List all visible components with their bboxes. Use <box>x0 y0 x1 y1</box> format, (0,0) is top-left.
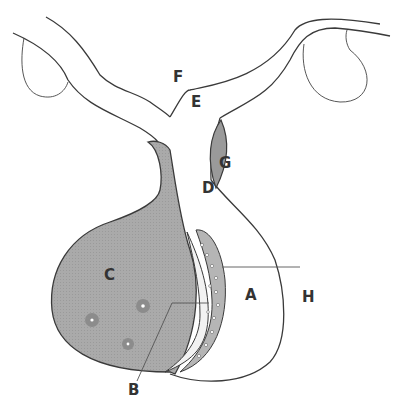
label-b: B <box>128 383 139 398</box>
cell-1-nucleus <box>90 318 93 321</box>
diagram-canvas <box>0 0 408 415</box>
cell-2-nucleus <box>141 304 145 308</box>
left-branch-upper-wall <box>46 17 170 117</box>
left-branch-lower-wall <box>13 33 158 142</box>
label-c: C <box>104 268 115 283</box>
label-h: H <box>302 290 315 305</box>
label-f: F <box>173 70 183 85</box>
cell-3-nucleus <box>127 343 130 346</box>
label-e: E <box>191 95 201 110</box>
right-branch-lower-wall <box>220 28 390 118</box>
label-g: G <box>219 156 231 171</box>
right-cyst-loop <box>303 30 367 102</box>
label-d: D <box>202 181 214 196</box>
label-a: A <box>245 288 257 303</box>
right-branch-upper-wall <box>170 19 380 117</box>
structure-c-mass <box>52 141 197 374</box>
